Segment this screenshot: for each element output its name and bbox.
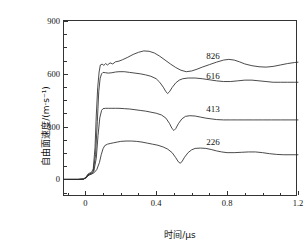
- y-axis-major-tick: [64, 74, 68, 75]
- y-axis-tick-label: 0: [56, 175, 60, 184]
- x-axis-minor-tick: [245, 193, 246, 196]
- y-axis-tick-label: 300: [47, 122, 60, 131]
- x-axis-minor-tick: [121, 193, 122, 196]
- x-axis-minor-tick: [209, 193, 210, 196]
- curve-226: [64, 141, 298, 179]
- x-axis-tick-label: 0: [83, 199, 87, 208]
- x-axis-major-tick: [85, 191, 86, 195]
- x-axis-major-tick: [227, 191, 228, 195]
- y-axis-minor-tick: [64, 34, 67, 35]
- x-axis-tick-label: 1.2: [293, 199, 304, 208]
- y-axis-minor-tick: [64, 61, 67, 62]
- x-axis-tick-label: 0.4: [151, 199, 162, 208]
- x-axis-minor-tick: [103, 193, 104, 196]
- y-axis-tick-label: 600: [47, 70, 60, 79]
- x-axis-title: 时间/μs: [63, 228, 297, 241]
- y-axis-minor-tick: [64, 153, 67, 154]
- x-axis-minor-tick: [138, 193, 139, 196]
- series-label-826: 826: [206, 52, 220, 61]
- y-axis-minor-tick: [64, 47, 67, 48]
- series-label-616: 616: [206, 72, 220, 81]
- x-axis-minor-tick: [280, 193, 281, 196]
- x-axis-tick-label: 0.8: [222, 199, 233, 208]
- y-axis-minor-tick: [64, 166, 67, 167]
- curve-413: [64, 108, 298, 179]
- y-axis-minor-tick: [64, 87, 67, 88]
- y-axis-tick-label: 900: [47, 17, 60, 26]
- x-axis-minor-tick: [174, 193, 175, 196]
- x-axis-minor-tick: [68, 193, 69, 196]
- x-axis-minor-tick: [263, 193, 264, 196]
- y-axis-major-tick: [64, 127, 68, 128]
- y-axis-minor-tick: [64, 193, 67, 194]
- y-axis-minor-tick: [64, 140, 67, 141]
- y-axis-major-tick: [64, 179, 68, 180]
- x-axis-major-tick: [298, 191, 299, 195]
- curve-826: [64, 51, 298, 179]
- x-axis-minor-tick: [192, 193, 193, 196]
- curves-container: [64, 21, 298, 197]
- series-label-226: 226: [206, 138, 220, 147]
- plot-area: 030060090000.40.81.2826616413226: [63, 20, 297, 196]
- y-axis-major-tick: [64, 21, 68, 22]
- chart-figure: 自由面速度/(m·s⁻¹) 030060090000.40.81.2826616…: [0, 0, 308, 251]
- series-label-413: 413: [206, 105, 220, 114]
- y-axis-minor-tick: [64, 113, 67, 114]
- x-axis-major-tick: [156, 191, 157, 195]
- y-axis-minor-tick: [64, 100, 67, 101]
